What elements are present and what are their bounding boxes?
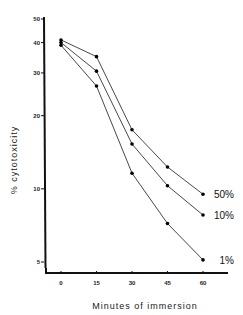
x-axis-title: Minutes of immersion xyxy=(92,301,198,311)
data-point xyxy=(95,55,99,59)
x-tick-label: 15 xyxy=(93,280,100,286)
series-line xyxy=(61,45,203,260)
x-tick-label: 45 xyxy=(164,280,171,286)
data-point xyxy=(201,258,205,262)
data-point xyxy=(166,184,170,188)
y-tick-label: 5 xyxy=(37,259,41,265)
y-tick-label: 10 xyxy=(33,186,40,192)
line-chart: 50403020105 015304560 50%10%1% % cytotox… xyxy=(0,0,243,315)
y-tick-label: 20 xyxy=(33,113,40,119)
series-line xyxy=(61,40,203,194)
x-tick-label: 0 xyxy=(59,280,63,286)
data-point xyxy=(201,192,205,196)
y-axis-ticks: 50403020105 xyxy=(33,16,44,265)
y-tick-label: 40 xyxy=(33,40,40,46)
series-1pct: 1% xyxy=(59,43,234,265)
series-label: 1% xyxy=(220,255,235,266)
data-point xyxy=(130,142,134,146)
data-point xyxy=(166,165,170,169)
series-label: 50% xyxy=(214,189,234,200)
data-point xyxy=(95,69,99,73)
data-point xyxy=(130,128,134,132)
y-axis-line xyxy=(44,17,46,268)
data-point xyxy=(201,213,205,217)
data-point xyxy=(95,84,99,88)
x-tick-label: 60 xyxy=(200,280,207,286)
data-point xyxy=(166,222,170,226)
y-tick-label: 30 xyxy=(33,70,40,76)
data-point xyxy=(130,171,134,175)
x-tick-label: 30 xyxy=(129,280,136,286)
data-point xyxy=(59,43,63,47)
data-series: 50%10%1% xyxy=(59,38,234,266)
y-axis-title: % cytotoxicity xyxy=(9,126,19,195)
y-tick-label: 50 xyxy=(33,16,40,22)
series-label: 10% xyxy=(214,210,234,221)
axes xyxy=(44,17,228,274)
